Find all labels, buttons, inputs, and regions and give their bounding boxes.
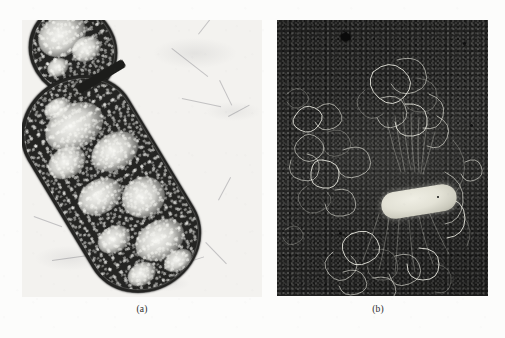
panel-b-caption: (b)	[358, 304, 398, 314]
stain-speck	[437, 196, 439, 198]
panel-b-micrograph	[277, 20, 488, 296]
stain-artifact-spot	[341, 33, 350, 41]
stain-speck	[470, 124, 473, 127]
stain-speck	[463, 42, 466, 45]
figure-plate: (a) (b)	[0, 0, 505, 338]
panel-a-micrograph	[22, 20, 262, 297]
stain-speck	[339, 232, 342, 235]
dna-filament-spread	[277, 20, 488, 296]
panel-a-caption: (a)	[122, 304, 162, 314]
